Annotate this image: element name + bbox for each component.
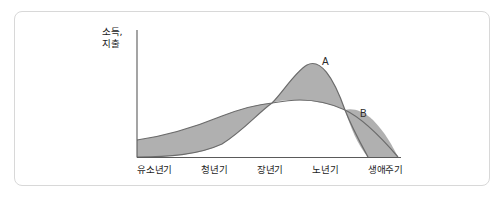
x-axis-tick-labels: 유소년기 청년기 장년기 노년기 생애주기 xyxy=(137,162,403,176)
shaded-region-old-deficit xyxy=(345,109,398,157)
figure-root: 소득, 지출 유소년기 청년기 장년기 노년기 생애주기 A B xyxy=(0,0,504,200)
x-tick-label-youth: 유소년기 xyxy=(137,162,172,176)
y-axis-label-line-2: 지출 xyxy=(102,38,122,50)
x-tick-label-old-age: 노년기 xyxy=(312,162,338,176)
curve-b-annotation-label: B xyxy=(360,108,367,119)
x-tick-label-young-adult: 청년기 xyxy=(201,162,227,176)
shaded-region-youth-deficit xyxy=(137,103,272,157)
x-tick-label-life-cycle: 생애주기 xyxy=(368,162,403,176)
curve-a-annotation-label: A xyxy=(322,56,329,67)
y-axis-label: 소득, 지출 xyxy=(102,26,122,50)
y-axis-label-line-1: 소득, xyxy=(102,26,122,38)
shaded-region-middle-surplus xyxy=(272,64,345,110)
x-tick-label-middle-age: 장년기 xyxy=(257,162,283,176)
